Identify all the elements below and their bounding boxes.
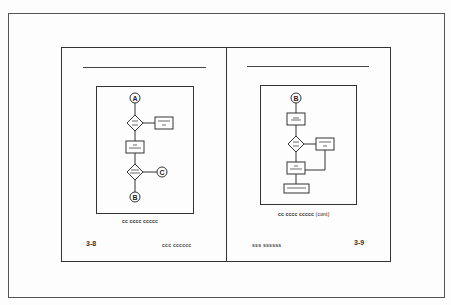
right-diagram-frame xyxy=(260,85,357,205)
left-page-number: 3-8 xyxy=(86,240,96,247)
right-footer-text: sss ssssss xyxy=(252,242,281,248)
right-page-number: 3-9 xyxy=(354,239,364,246)
decision-diamond xyxy=(127,164,143,180)
process-box xyxy=(126,141,144,153)
process-box xyxy=(155,117,173,129)
caption-text: cc cccc ccccc xyxy=(278,211,314,217)
right-header-rule xyxy=(247,66,369,67)
caption-cont: (cont) xyxy=(316,211,330,217)
left-figure-caption: cc cccc ccccc xyxy=(122,218,158,224)
connector-label: C xyxy=(159,169,164,176)
flowchart-svg: A C B B xyxy=(0,0,451,305)
right-figure-caption: cc cccc ccccc (cont) xyxy=(278,211,330,217)
connector-label: B xyxy=(132,194,137,201)
decision-diamond xyxy=(127,115,143,131)
left-footer-text: ccc cccccc xyxy=(162,242,191,248)
connector-label: A xyxy=(132,95,137,102)
left-flowchart xyxy=(126,93,173,202)
